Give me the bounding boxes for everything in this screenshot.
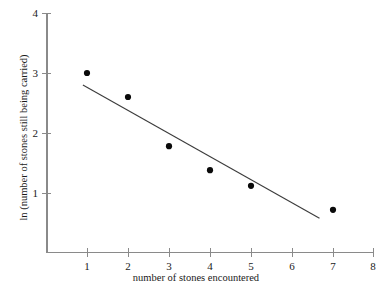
- trend-line: [83, 85, 320, 218]
- x-tick-label-7: 7: [330, 260, 336, 272]
- x-tick-label-4: 4: [207, 260, 213, 272]
- x-tick-label-2: 2: [125, 260, 131, 272]
- x-axis-title: number of stones encountered: [0, 272, 392, 283]
- data-point: [125, 94, 131, 100]
- y-tick-label-3: 3: [33, 67, 39, 79]
- y-tick-label-1: 1: [33, 187, 39, 199]
- scatter-chart: 4 3 2 1 1 2 3 4 5 6 7 8 number of stones…: [0, 0, 392, 293]
- y-tick-label-4: 4: [33, 7, 39, 19]
- data-point-group: [84, 70, 336, 213]
- data-point: [248, 183, 254, 189]
- y-tick-label-2: 2: [33, 127, 39, 139]
- x-tick-label-3: 3: [166, 260, 172, 272]
- y-axis-title: ln (number of stones still being carried…: [18, 23, 29, 253]
- data-point: [207, 167, 213, 173]
- plot-area: 4 3 2 1 1 2 3 4 5 6 7 8: [0, 0, 392, 293]
- x-tick-label-1: 1: [84, 260, 90, 272]
- data-point: [166, 143, 172, 149]
- x-tick-label-6: 6: [289, 260, 295, 272]
- x-tick-label-5: 5: [248, 260, 254, 272]
- x-tick-label-8: 8: [370, 260, 376, 272]
- data-point: [84, 70, 90, 76]
- data-point: [330, 207, 336, 213]
